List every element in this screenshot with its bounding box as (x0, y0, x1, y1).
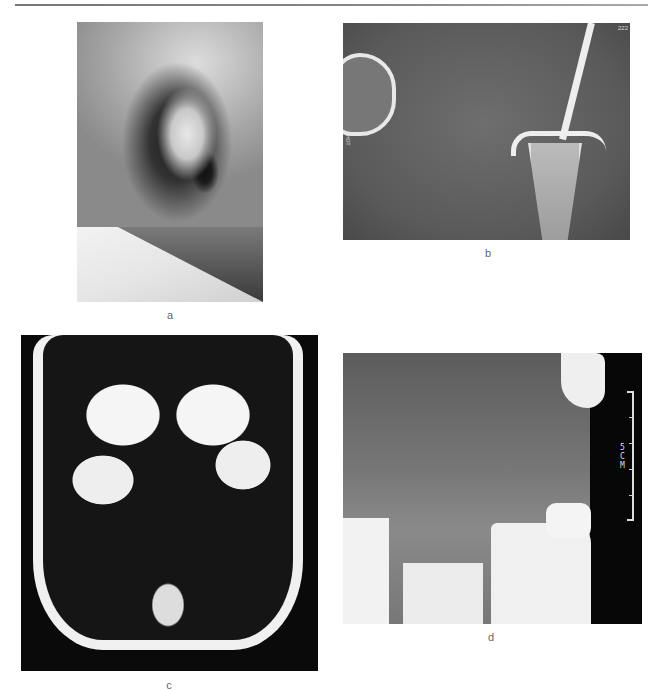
panel-c-mri-coronal (21, 335, 318, 671)
panel-b-ct-image: HOT 222 (343, 23, 630, 240)
panel-d-label: d (481, 631, 501, 643)
brain-structures (43, 335, 293, 640)
condyle-stem (528, 143, 582, 240)
panel-d-mri: 5CM (343, 353, 642, 624)
scale-tick (629, 469, 633, 470)
scale-tick (629, 417, 633, 418)
panel-b-label: b (478, 247, 498, 259)
scale-bar (632, 391, 634, 521)
panel-a-label: a (160, 309, 180, 321)
header-rule (15, 4, 648, 6)
panel-c-label: c (159, 679, 179, 691)
panel-a-ear-photo (77, 22, 263, 302)
bone-structure-left (343, 53, 396, 136)
scale-label: 5CM (620, 443, 628, 470)
bright-region-center (403, 563, 483, 624)
overlay-text-top-right: 222 (618, 25, 628, 31)
bright-region-top-right (561, 353, 605, 408)
bright-region-right (491, 523, 591, 624)
bright-region-left (343, 518, 389, 624)
scale-tick (629, 495, 633, 496)
ramus-bone (559, 23, 595, 140)
overlay-text-left: HOT (345, 135, 351, 146)
scale-tick (629, 443, 633, 444)
bright-region-right-upper (546, 503, 591, 538)
